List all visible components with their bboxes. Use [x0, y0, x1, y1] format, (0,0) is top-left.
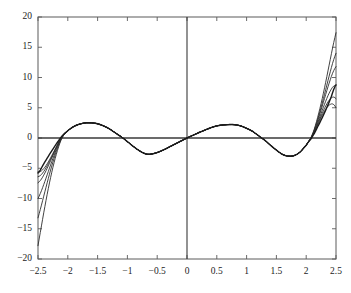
- x-tick-label: −0.5: [149, 267, 166, 277]
- x-tick-label: 1: [244, 267, 249, 277]
- x-tick-label: −1.5: [89, 267, 106, 277]
- x-tick-label: −2.5: [29, 267, 46, 277]
- y-tick-label: 20: [0, 12, 32, 22]
- x-tick-label: 0: [185, 267, 190, 277]
- y-tick-label: −15: [0, 224, 32, 234]
- x-tick-label: 1.5: [270, 267, 282, 277]
- x-tick-label: 2: [304, 267, 309, 277]
- y-tick-label: −20: [0, 254, 32, 264]
- plot-canvas: [0, 0, 351, 293]
- x-tick-label: 2.5: [330, 267, 342, 277]
- y-tick-label: −10: [0, 194, 32, 204]
- y-tick-label: −5: [0, 164, 32, 174]
- x-tick-label: 0.5: [211, 267, 223, 277]
- x-tick-label: −2: [63, 267, 73, 277]
- y-tick-label: 0: [0, 133, 32, 143]
- y-tick-label: 15: [0, 43, 32, 53]
- chart-figure: −20−15−10−505101520 −2.5−2−1.5−1−0.500.5…: [0, 0, 351, 293]
- y-tick-label: 5: [0, 103, 32, 113]
- y-tick-label: 10: [0, 73, 32, 83]
- x-tick-label: −1: [122, 267, 132, 277]
